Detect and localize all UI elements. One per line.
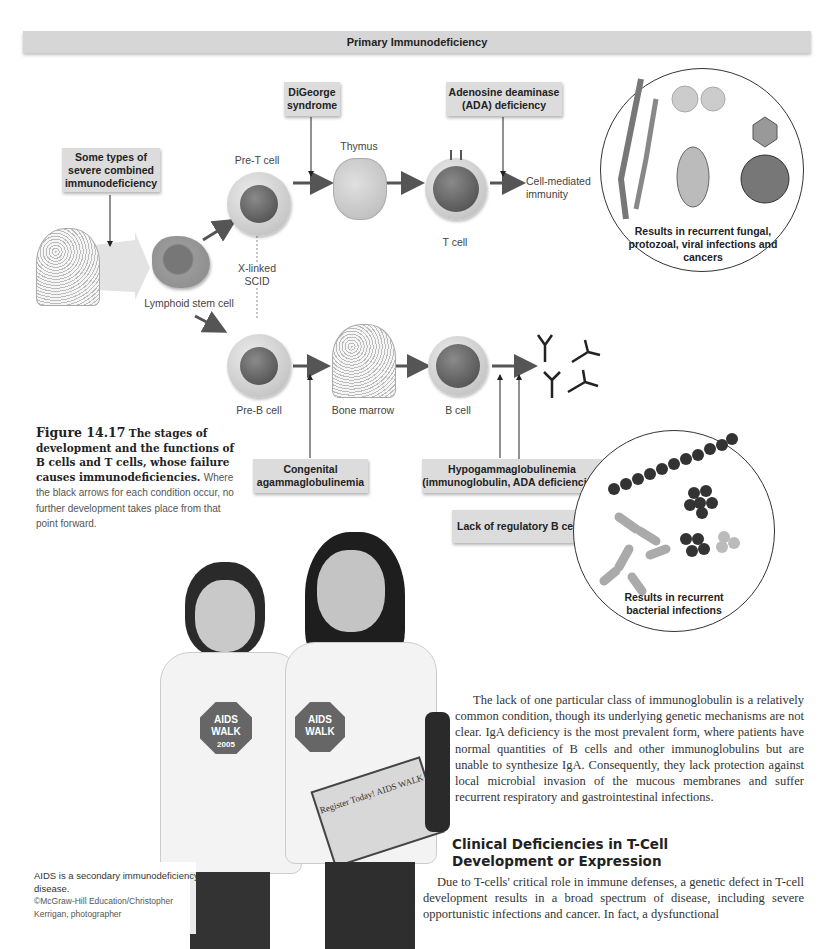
bone-marrow-image-left xyxy=(36,228,100,306)
label-bone-marrow: Bone marrow xyxy=(326,404,400,417)
hypogamma-line1: Hypogammaglobulinemia xyxy=(448,463,576,476)
bone-marrow-image xyxy=(332,324,396,398)
shirt-year-left: 2005 xyxy=(217,740,235,749)
condition-digeorge: DiGeorge syndrome xyxy=(284,82,340,116)
label-pre-t-cell: Pre-T cell xyxy=(222,154,292,167)
b-results-text: Results in recurrent bacterial infection… xyxy=(614,591,734,617)
figure-number: Figure 14.17 xyxy=(36,425,125,440)
lymphoid-stem-cell-image xyxy=(152,236,210,288)
paragraph-iga-deficiency: The lack of one particular class of immu… xyxy=(455,692,804,805)
figure-caption: Figure 14.17 The stages of development a… xyxy=(36,426,236,532)
section-heading-line1: Clinical Deficiencies in T-Cell xyxy=(452,836,668,852)
cell-mediated-line2: immunity xyxy=(526,188,568,200)
pre-t-cell-nucleus xyxy=(240,185,278,223)
pre-b-cell-nucleus xyxy=(240,347,278,385)
label-pre-b-cell: Pre-B cell xyxy=(222,404,296,417)
shirt-text-right: AIDS WALK xyxy=(305,714,334,737)
t-results-text: Results in recurrent fungal, protozoal, … xyxy=(623,225,783,264)
panel-t-cell-results: Results in recurrent fungal, protozoal, … xyxy=(600,68,804,272)
t-cell-nucleus xyxy=(433,166,479,212)
photo-caption-text: AIDS is a secondary immunodeficiency dis… xyxy=(34,869,204,895)
cell-mediated-line1: Cell-mediated xyxy=(526,175,591,187)
condition-ada: Adenosine deaminase (ADA) deficiency xyxy=(446,82,562,116)
label-thymus: Thymus xyxy=(329,140,389,153)
section-heading-line2: Development or Expression xyxy=(452,853,662,869)
label-b-cell: B cell xyxy=(430,404,486,417)
label-t-cell: T cell xyxy=(430,236,480,249)
t-cell-receptor-icon xyxy=(450,150,462,160)
thymus-image xyxy=(333,158,387,220)
b-cell-nucleus xyxy=(436,344,480,388)
shirt-text-left: AIDS WALK xyxy=(211,714,240,737)
label-cell-mediated-immunity: Cell-mediated immunity xyxy=(526,175,596,201)
label-lymphoid-stem-cell: Lymphoid stem cell xyxy=(134,297,244,310)
x-linked-line1: X-linked xyxy=(238,262,276,274)
condition-scid: Some types of severe combined immunodefi… xyxy=(62,148,160,192)
paragraph-t-cell-defect: Due to T-cells' critical role in immune … xyxy=(423,874,804,923)
condition-lack-regulatory-b-cells: Lack of regulatory B cells xyxy=(452,510,590,543)
shirt-logo-right: AIDS WALK xyxy=(295,702,345,752)
photo-credit: ©McGraw-Hill Education/Christopher Kerri… xyxy=(34,895,204,921)
section-heading-t-cell-deficiencies: Clinical Deficiencies in T-Cell Developm… xyxy=(452,836,712,870)
condition-congenital-agammaglobulinemia: Congenital agammaglobulinemia xyxy=(253,459,368,493)
x-linked-line2: SCID xyxy=(244,275,269,287)
panel-b-cell-results: Results in recurrent bacterial infection… xyxy=(573,430,775,632)
photo-caption: AIDS is a secondary immunodeficiency dis… xyxy=(34,869,204,921)
antibody-icons xyxy=(538,335,600,398)
label-x-linked-scid: X-linked SCID xyxy=(232,262,282,288)
